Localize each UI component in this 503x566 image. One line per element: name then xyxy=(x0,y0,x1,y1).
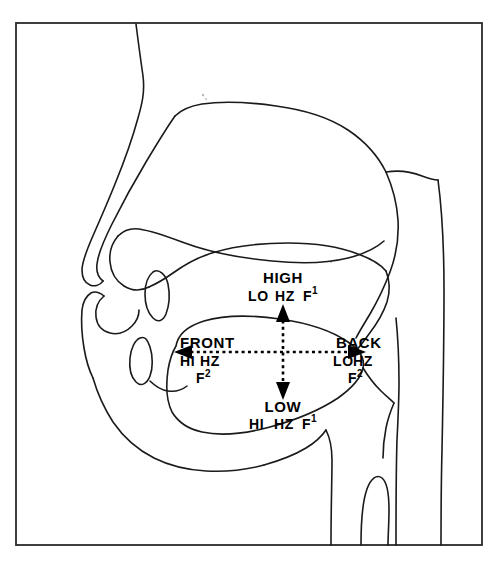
lower-incisor xyxy=(130,337,153,384)
face-profile-line xyxy=(82,24,144,286)
arrowhead-up xyxy=(276,304,290,322)
floor-of-mouth-line xyxy=(264,430,326,465)
label-high-lo: LO xyxy=(248,288,269,304)
label-back-line1: BACK xyxy=(336,334,382,351)
label-front-f: F xyxy=(196,370,205,386)
skull-back-line xyxy=(386,171,438,180)
label-back-f: F xyxy=(348,370,357,386)
label-front-hi: HI xyxy=(180,353,195,369)
label-high-line1: HIGH xyxy=(263,269,303,286)
label-low-f-superscript: 1 xyxy=(311,413,317,424)
label-front-hz: HZ xyxy=(200,353,220,369)
label-front-line1: FRONT xyxy=(180,334,235,351)
neck-back-contour xyxy=(438,180,444,545)
label-back: BACK LO HZ F 2 xyxy=(333,334,382,386)
label-low-line1: LOW xyxy=(265,398,302,415)
upper-lip xyxy=(96,296,139,334)
neck-front-contour xyxy=(326,430,332,545)
label-low-hz: HZ xyxy=(274,416,294,432)
lower-lip xyxy=(82,292,104,378)
label-back-lo: LO xyxy=(333,353,354,369)
label-high-f-superscript: 1 xyxy=(312,285,318,296)
vocal-tract-diagram: HIGH LO HZ F 1 LOW HI HZ F 1 FRONT HI HZ… xyxy=(0,0,503,566)
label-back-hz: HZ xyxy=(353,353,373,369)
label-high-f: F xyxy=(303,288,312,304)
label-low-f: F xyxy=(302,416,311,432)
lower-gum-ridge xyxy=(150,381,187,391)
hard-palate-front-edge xyxy=(110,236,149,290)
label-front-f-superscript: 2 xyxy=(205,368,211,379)
nasal-cavity-roof xyxy=(175,102,386,172)
pharyngeal-back-wall xyxy=(396,318,399,545)
label-high: HIGH LO HZ F 1 xyxy=(248,269,318,304)
label-high-hz: HZ xyxy=(275,288,295,304)
label-front: FRONT HI HZ F 2 xyxy=(180,334,235,386)
label-low-hi: HI xyxy=(249,416,264,432)
epiglottis xyxy=(383,403,394,458)
tongue-root-line xyxy=(363,368,394,403)
scan-artifacts xyxy=(202,94,332,263)
label-back-f-superscript: 2 xyxy=(357,368,363,379)
larynx-loop xyxy=(361,476,389,545)
figure-frame xyxy=(16,23,482,545)
mandible-contour xyxy=(93,378,264,471)
vocal-tract-figure: HIGH LO HZ F 1 LOW HI HZ F 1 FRONT HI HZ… xyxy=(0,0,503,566)
upper-incisor xyxy=(145,271,169,321)
